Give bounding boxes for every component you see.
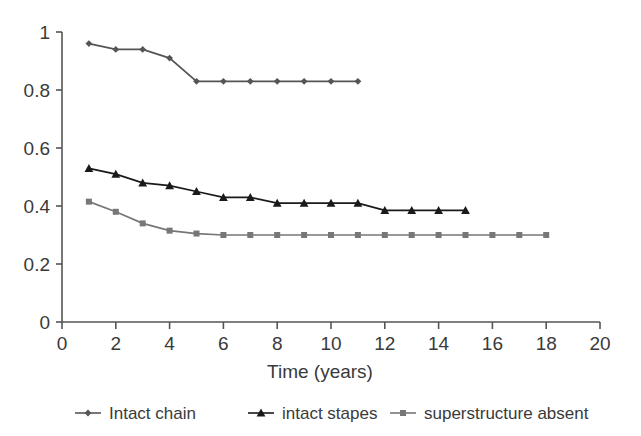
legend-item-2[interactable]: intact stapes [248, 404, 377, 423]
x-tick-label: 18 [536, 333, 557, 354]
data-point [516, 232, 522, 238]
data-point [140, 220, 146, 226]
data-point [247, 232, 253, 238]
data-point [86, 199, 92, 205]
y-axis: 00.20.40.60.81 [24, 22, 62, 333]
series-line [89, 202, 546, 235]
data-point [355, 78, 362, 85]
legend-label: superstructure absent [424, 404, 589, 423]
data-point [489, 232, 495, 238]
y-tick-label: 0.4 [24, 196, 51, 217]
data-point [220, 232, 226, 238]
legend-label: intact stapes [282, 404, 377, 423]
data-point [328, 232, 334, 238]
data-point [274, 232, 280, 238]
x-tick-label: 12 [374, 333, 395, 354]
data-point [112, 46, 119, 53]
data-point [328, 78, 335, 85]
data-point [113, 209, 119, 215]
x-axis-title-text: Time (years) [267, 361, 373, 382]
x-tick-label: 10 [320, 333, 341, 354]
series-2 [85, 164, 470, 214]
x-tick-label: 16 [482, 333, 503, 354]
data-point [301, 232, 307, 238]
y-tick-label: 0.6 [24, 138, 50, 159]
x-tick-label: 2 [111, 333, 122, 354]
chart-canvas: 00.20.40.60.81 02468101214161820 Time (y… [0, 0, 641, 436]
legend-item-3[interactable]: superstructure absent [390, 404, 589, 423]
y-tick-label: 0.2 [24, 254, 50, 275]
data-point [409, 232, 415, 238]
legend-marker-square-icon [400, 410, 406, 416]
legend-label: Intact chain [109, 404, 196, 423]
data-point [247, 78, 254, 85]
data-series-group [85, 40, 550, 238]
survival-curve-chart: 00.20.40.60.81 02468101214161820 Time (y… [0, 0, 641, 436]
data-point [85, 164, 94, 172]
data-point [355, 232, 361, 238]
legend-marker-diamond-icon [85, 410, 92, 417]
x-axis-title: Time (years) [267, 361, 373, 382]
data-point [274, 78, 281, 85]
chart-legend: Intact chainintact stapessuperstructure … [75, 404, 589, 423]
x-tick-label: 6 [218, 333, 229, 354]
series-1 [86, 40, 362, 84]
y-tick-label: 0 [39, 312, 50, 333]
data-point [436, 232, 442, 238]
x-tick-label: 4 [164, 333, 175, 354]
x-tick-label: 14 [428, 333, 450, 354]
data-point [382, 232, 388, 238]
data-point [301, 78, 308, 85]
legend-item-1[interactable]: Intact chain [75, 404, 196, 423]
series-line [89, 44, 358, 82]
data-point [463, 232, 469, 238]
data-point [139, 46, 146, 53]
x-axis: 02468101214161820 [57, 322, 611, 354]
data-point [543, 232, 549, 238]
x-tick-label: 8 [272, 333, 283, 354]
data-point [220, 78, 227, 85]
x-tick-label: 20 [589, 333, 610, 354]
x-tick-label: 0 [57, 333, 68, 354]
y-tick-label: 1 [39, 22, 50, 43]
y-tick-label: 0.8 [24, 80, 50, 101]
series-3 [86, 199, 549, 238]
data-point [86, 40, 93, 47]
data-point [167, 228, 173, 234]
data-point [194, 231, 200, 237]
